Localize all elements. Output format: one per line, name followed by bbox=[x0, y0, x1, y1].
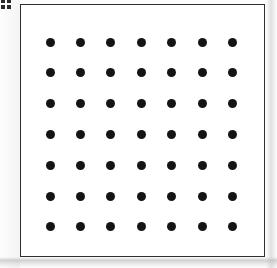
scan-edge-shading-bottom bbox=[0, 257, 277, 268]
grid-dot bbox=[76, 161, 85, 170]
grid-dot bbox=[167, 130, 176, 139]
grid-dot bbox=[137, 38, 146, 47]
grid-dot bbox=[167, 192, 176, 201]
grid-dot bbox=[76, 99, 85, 108]
grid-dot bbox=[228, 222, 237, 231]
grid-dot bbox=[198, 222, 207, 231]
grid-dot bbox=[137, 222, 146, 231]
grid-dot bbox=[167, 161, 176, 170]
grid-dot bbox=[198, 68, 207, 77]
grid-dot bbox=[167, 68, 176, 77]
label-fragment-mark bbox=[1, 0, 5, 3]
label-fragment-mark bbox=[7, 5, 11, 9]
grid-dot bbox=[198, 161, 207, 170]
grid-dot bbox=[106, 130, 115, 139]
grid-dot bbox=[137, 161, 146, 170]
label-fragment-mark bbox=[1, 5, 5, 9]
grid-dot bbox=[106, 222, 115, 231]
grid-dot bbox=[46, 99, 55, 108]
grid-dot bbox=[46, 161, 55, 170]
grid-dot bbox=[46, 222, 55, 231]
grid-dot bbox=[228, 38, 237, 47]
grid-dot bbox=[76, 38, 85, 47]
label-fragment-mark bbox=[7, 0, 11, 3]
scanned-figure-page bbox=[0, 0, 277, 268]
grid-dot bbox=[198, 130, 207, 139]
grid-dot bbox=[167, 222, 176, 231]
grid-dot bbox=[137, 68, 146, 77]
grid-dot bbox=[228, 99, 237, 108]
grid-dot bbox=[137, 130, 146, 139]
grid-dot bbox=[106, 192, 115, 201]
scan-edge-shading-left bbox=[0, 0, 20, 268]
grid-dot bbox=[228, 68, 237, 77]
grid-dot bbox=[106, 68, 115, 77]
grid-dot bbox=[106, 99, 115, 108]
grid-dot bbox=[46, 192, 55, 201]
grid-dot bbox=[167, 99, 176, 108]
grid-dot bbox=[106, 38, 115, 47]
grid-dot bbox=[198, 192, 207, 201]
figure-label-fragment bbox=[1, 0, 12, 10]
grid-dot bbox=[167, 38, 176, 47]
grid-dot bbox=[106, 161, 115, 170]
grid-dot bbox=[46, 130, 55, 139]
grid-dot bbox=[137, 192, 146, 201]
grid-dot bbox=[46, 38, 55, 47]
grid-dot bbox=[76, 130, 85, 139]
dot-grid-frame bbox=[20, 4, 265, 257]
scan-edge-shading-right bbox=[266, 0, 277, 268]
grid-dot bbox=[76, 68, 85, 77]
dot-grid bbox=[21, 5, 264, 256]
grid-dot bbox=[198, 38, 207, 47]
grid-dot bbox=[228, 130, 237, 139]
grid-dot bbox=[228, 192, 237, 201]
grid-dot bbox=[46, 68, 55, 77]
grid-dot bbox=[76, 192, 85, 201]
grid-dot bbox=[228, 161, 237, 170]
grid-dot bbox=[198, 99, 207, 108]
grid-dot bbox=[137, 99, 146, 108]
grid-dot bbox=[76, 222, 85, 231]
